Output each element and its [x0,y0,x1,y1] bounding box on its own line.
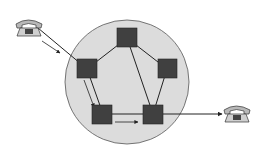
switch-node-b [117,28,137,47]
network-diagram [0,0,269,151]
switch-node-e [143,105,163,124]
telephone-icon [16,20,42,36]
switch-node-c [158,59,177,78]
switch-node-d [92,105,112,124]
telephone-icon [224,106,250,122]
switch-node-a [77,59,97,78]
